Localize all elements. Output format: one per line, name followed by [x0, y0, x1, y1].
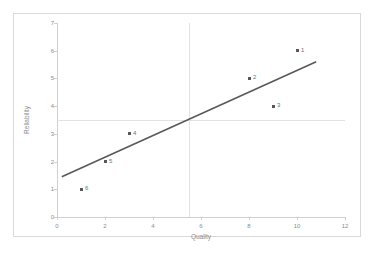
- y-tick-label: 7: [45, 20, 54, 26]
- data-point-label: 1: [301, 47, 304, 53]
- x-tick-mark: [345, 217, 346, 220]
- data-point-marker: [80, 188, 83, 191]
- data-point-marker: [272, 105, 275, 108]
- x-tick-mark: [249, 217, 250, 220]
- data-point-label: 5: [109, 158, 112, 164]
- x-axis-title: Quality: [57, 234, 345, 241]
- data-point-label: 2: [253, 74, 256, 80]
- data-point-marker: [104, 160, 107, 163]
- y-tick-label: 2: [45, 159, 54, 165]
- x-tick-mark: [57, 217, 58, 220]
- x-tick-label: 2: [103, 223, 106, 229]
- y-tick-label: 1: [45, 186, 54, 192]
- y-tick-label: 4: [45, 103, 54, 109]
- x-tick-label: 0: [55, 223, 58, 229]
- data-point-label: 3: [277, 102, 280, 108]
- data-point-label: 6: [85, 185, 88, 191]
- x-tick-mark: [201, 217, 202, 220]
- y-tick-label: 3: [45, 131, 54, 137]
- data-point-marker: [128, 132, 131, 135]
- y-tick-label: 5: [45, 75, 54, 81]
- chart-frame: 024681012 01234567 123456 Quality Reliab…: [13, 13, 361, 237]
- x-tick-mark: [153, 217, 154, 220]
- x-tick-label: 10: [294, 223, 301, 229]
- y-tick-mark: [54, 217, 57, 218]
- plot-area: 024681012 01234567 123456 Quality Reliab…: [57, 23, 345, 217]
- y-axis-title: Reliability: [24, 106, 31, 134]
- data-point-label: 4: [133, 130, 136, 136]
- x-tick-mark: [105, 217, 106, 220]
- x-tick-label: 12: [342, 223, 349, 229]
- data-point-marker: [296, 49, 299, 52]
- y-tick-label: 6: [45, 48, 54, 54]
- x-tick-mark: [297, 217, 298, 220]
- x-tick-label: 4: [151, 223, 154, 229]
- y-tick-label: 0: [45, 214, 54, 220]
- data-point-marker: [248, 77, 251, 80]
- x-tick-label: 8: [247, 223, 250, 229]
- x-tick-label: 6: [199, 223, 202, 229]
